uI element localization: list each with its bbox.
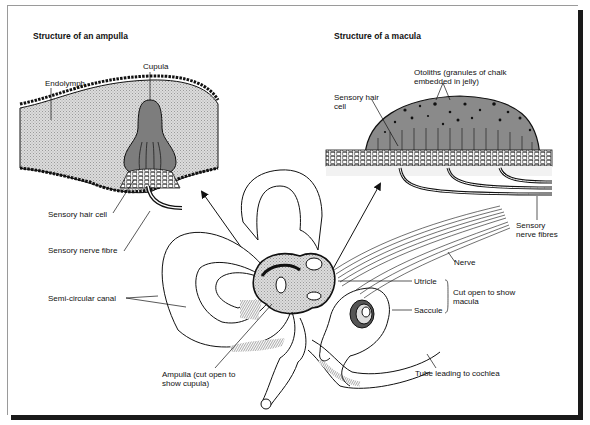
label-saccule: Saccule: [414, 306, 442, 315]
ampulla-cross-section: [20, 72, 218, 251]
macula-cross-section: [326, 83, 552, 220]
label-otoliths-line1: Otoliths (granules of chalk: [414, 68, 507, 77]
label-semi-circular-canal: Semi-circular canal: [48, 294, 116, 303]
label-cut-open-line1: Cut open to show: [453, 288, 515, 297]
label-otoliths-line2: embedded in jelly): [414, 77, 479, 86]
label-macula-sensory-hair-cell-line2: cell: [334, 102, 346, 111]
label-utricle: Utricle: [414, 277, 437, 286]
label-ampulla-line2: show cupula): [162, 379, 209, 388]
macula-panel-title: Structure of a macula: [334, 31, 421, 41]
label-macula-sensory-hair-cell-line1: Sensory hair: [334, 93, 379, 102]
label-ampulla-line1: Ampulla (cut open to: [162, 370, 235, 379]
label-tube-to-cochlea: Tube leading to cochlea: [415, 369, 500, 378]
label-sensory-nerve-fibre: Sensory nerve fibre: [48, 246, 117, 255]
label-sensory-nerve-fibres-line2: nerve fibres: [516, 230, 558, 239]
label-nerve: Nerve: [454, 258, 475, 267]
label-cupula: Cupula: [143, 62, 168, 71]
ampulla-panel-title: Structure of an ampulla: [33, 31, 128, 41]
label-sensory-hair-cell: Sensory hair cell: [48, 210, 107, 219]
label-endolymph: Endolymph: [45, 79, 85, 88]
label-cut-open-line2: macula: [453, 297, 479, 306]
label-sensory-nerve-fibres-line1: Sensory: [516, 221, 545, 230]
